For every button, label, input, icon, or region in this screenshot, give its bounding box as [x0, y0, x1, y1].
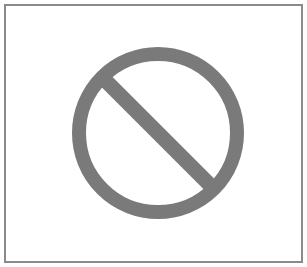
prohibited-icon [0, 0, 307, 267]
prohibited-slash [102, 77, 214, 189]
